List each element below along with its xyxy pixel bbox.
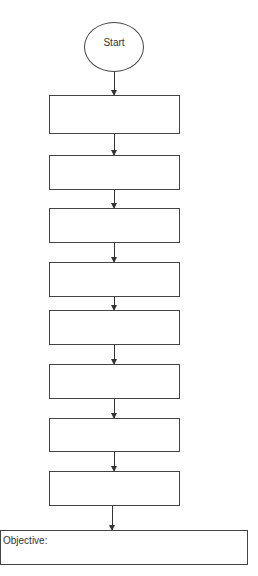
step-box-5 [49, 310, 180, 345]
step-box-7 [49, 418, 180, 452]
arrow-step-4-to-5 [114, 297, 115, 310]
step-box-4 [49, 262, 180, 297]
step-box-2 [49, 155, 180, 190]
arrow-step-7-to-8 [114, 452, 115, 471]
step-box-8 [49, 471, 180, 506]
step-box-6 [49, 364, 180, 399]
arrow-step-1-to-2 [114, 134, 115, 155]
arrow-step-6-to-7 [114, 399, 115, 418]
objective-box: Objective: [0, 530, 248, 565]
arrow-step-3-to-4 [114, 243, 115, 262]
step-box-3 [49, 208, 180, 243]
arrow-start-to-step-1 [114, 72, 115, 95]
objective-label: Objective: [3, 535, 47, 546]
arrow-step-8-to-objective [112, 506, 113, 530]
arrow-step-5-to-6 [114, 345, 115, 364]
start-label: Start [85, 37, 143, 48]
start-node: Start [84, 22, 144, 72]
arrow-step-2-to-3 [114, 190, 115, 208]
step-box-1 [49, 95, 180, 134]
